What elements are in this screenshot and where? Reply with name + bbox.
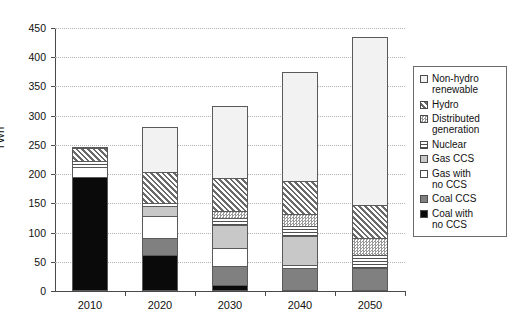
legend-label: Gas withno CCS [432, 168, 471, 190]
bar-segment[interactable] [72, 148, 108, 161]
bar-segment[interactable] [282, 268, 318, 291]
legend-item[interactable]: Non-hydrorenewable [420, 73, 501, 95]
bar-segment[interactable] [212, 218, 248, 225]
bar-segment[interactable] [212, 225, 248, 248]
gridline [55, 28, 405, 29]
x-axis-line [55, 291, 406, 292]
bar-2010[interactable] [72, 147, 108, 291]
bar-2030[interactable] [212, 106, 248, 291]
bar-segment[interactable] [142, 172, 178, 203]
y-tick-label: 50 [0, 257, 46, 268]
y-tick-label: 100 [0, 228, 46, 239]
y-tick-label: 150 [0, 198, 46, 209]
bar-2050[interactable] [352, 37, 388, 291]
legend-swatch-icon [420, 101, 428, 109]
legend-item[interactable]: Gas withno CCS [420, 168, 501, 190]
bar-segment[interactable] [282, 265, 318, 267]
bar-segment[interactable] [352, 238, 388, 254]
bar-segment[interactable] [212, 106, 248, 178]
legend-label: Distributedgeneration [432, 113, 480, 135]
chart-legend: Non-hydrorenewableHydroDistributedgenera… [413, 66, 507, 237]
plot-area [55, 28, 405, 291]
bar-segment[interactable] [212, 285, 248, 291]
bar-segment[interactable] [72, 161, 108, 167]
bar-2020[interactable] [142, 127, 178, 291]
bar-segment[interactable] [142, 206, 178, 216]
bar-segment[interactable] [352, 205, 388, 239]
stacked-bar-chart: TWh 050100150200250300350400450 20102020… [0, 0, 512, 328]
y-tick-label: 300 [0, 111, 46, 122]
legend-item[interactable]: Coal CCS [420, 193, 501, 204]
legend-item[interactable]: Nuclear [420, 139, 501, 150]
y-tick-label: 400 [0, 52, 46, 63]
bar-segment[interactable] [142, 255, 178, 291]
bar-segment[interactable] [352, 268, 388, 291]
legend-swatch-icon [420, 210, 428, 218]
bar-segment[interactable] [72, 167, 108, 177]
legend-swatch-icon [420, 115, 428, 123]
y-tick-label: 200 [0, 169, 46, 180]
y-tick-label: 250 [0, 140, 46, 151]
bar-segment[interactable] [282, 236, 318, 265]
x-tick-mark [335, 291, 336, 296]
legend-label: Coal CCS [432, 193, 476, 204]
bar-segment[interactable] [142, 238, 178, 254]
x-tick-label: 2040 [270, 299, 330, 311]
legend-item[interactable]: Coal withno CCS [420, 208, 501, 230]
x-tick-mark [405, 291, 406, 296]
legend-swatch-icon [420, 155, 428, 163]
bar-segment[interactable] [282, 226, 318, 237]
legend-swatch-icon [420, 75, 428, 83]
bar-segment[interactable] [142, 203, 178, 206]
bar-segment[interactable] [212, 266, 248, 285]
bar-segment[interactable] [212, 211, 248, 218]
bar-segment[interactable] [282, 72, 318, 181]
legend-item[interactable]: Gas CCS [420, 153, 501, 164]
bar-segment[interactable] [142, 216, 178, 238]
bar-segment[interactable] [282, 181, 318, 214]
bar-segment[interactable] [282, 214, 318, 226]
legend-swatch-icon [420, 141, 428, 149]
x-tick-mark [265, 291, 266, 296]
y-tick-label: 0 [0, 286, 46, 297]
x-tick-label: 2020 [130, 299, 190, 311]
bar-segment[interactable] [352, 255, 388, 268]
legend-label: Nuclear [432, 139, 466, 150]
legend-item[interactable]: Hydro [420, 99, 501, 110]
bar-segment[interactable] [142, 127, 178, 172]
bar-segment[interactable] [212, 248, 248, 266]
x-tick-mark [125, 291, 126, 296]
legend-item[interactable]: Distributedgeneration [420, 113, 501, 135]
bar-segment[interactable] [352, 37, 388, 205]
legend-label: Coal withno CCS [432, 208, 473, 230]
legend-label: Non-hydrorenewable [432, 73, 479, 95]
legend-swatch-icon [420, 170, 428, 178]
legend-label: Hydro [432, 99, 459, 110]
y-tick-label: 450 [0, 23, 46, 34]
bar-segment[interactable] [72, 177, 108, 291]
bar-segment[interactable] [72, 147, 108, 148]
legend-swatch-icon [420, 195, 428, 203]
x-tick-mark [195, 291, 196, 296]
x-tick-label: 2030 [200, 299, 260, 311]
y-tick-label: 350 [0, 81, 46, 92]
x-tick-label: 2050 [340, 299, 400, 311]
bar-segment[interactable] [212, 178, 248, 211]
bar-2040[interactable] [282, 72, 318, 291]
legend-label: Gas CCS [432, 153, 474, 164]
x-tick-label: 2010 [60, 299, 120, 311]
